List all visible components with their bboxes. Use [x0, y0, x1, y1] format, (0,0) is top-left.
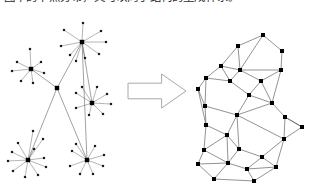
mesh-edge [221, 66, 230, 81]
star-backbone-edge [28, 88, 57, 160]
star-leaf-node [94, 145, 96, 147]
star-spoke-edge [28, 160, 38, 175]
mesh-edge [227, 135, 239, 149]
mesh-node [203, 104, 207, 108]
star-leaf-node [103, 154, 105, 156]
mesh-edge [262, 139, 284, 157]
star-spoke-edge [28, 160, 46, 167]
mesh-edge [254, 167, 276, 181]
mesh-node [260, 155, 264, 159]
right-arrow-icon [128, 74, 186, 108]
star-leaf-node [29, 48, 31, 50]
mesh-edge [221, 66, 240, 70]
star-hub-node [80, 40, 84, 44]
star-leaf-node [79, 173, 81, 175]
mesh-edge [214, 163, 228, 179]
transformation-arrow [128, 74, 186, 108]
mesh-edge [198, 163, 228, 164]
mesh-edge [206, 66, 221, 78]
mesh-edge [285, 117, 302, 127]
mesh-edge [230, 81, 249, 95]
star-leaf-node [100, 30, 102, 32]
star-leaf-node [102, 165, 104, 167]
mesh-node [252, 179, 256, 183]
mesh-edge [205, 106, 237, 115]
star-spoke-edge [25, 160, 28, 177]
mesh-node [236, 44, 240, 48]
star-backbone-edge [31, 69, 57, 88]
mesh-edge [205, 78, 206, 106]
mesh-node [225, 133, 229, 137]
star-leaf-node [63, 29, 65, 31]
star-leaf-node [106, 93, 108, 95]
mesh-node [280, 49, 284, 53]
mesh-node [237, 147, 241, 151]
star-leaf-node [42, 138, 44, 140]
caption-text: 图中的节点分布，又可以向子结构的生成体系。 [4, 0, 239, 4]
mesh-edge [284, 127, 302, 139]
mesh-node [204, 76, 208, 80]
star-leaf-node [43, 157, 45, 159]
star-hub-node [85, 158, 89, 162]
star-leaf-node [82, 22, 84, 24]
mesh-edge [198, 150, 204, 164]
mesh-node [282, 137, 286, 141]
mesh-edge [239, 149, 262, 157]
mesh-node [235, 113, 239, 117]
mesh-node [283, 115, 287, 119]
star-backbone-edge [82, 42, 87, 160]
mesh-edge [238, 46, 240, 70]
mesh-node [196, 87, 200, 91]
star-leaf-node [81, 86, 83, 88]
mesh-edge [247, 157, 262, 169]
mesh-node [196, 162, 200, 166]
mesh-node [261, 33, 265, 37]
mesh-node [247, 93, 251, 97]
star-spoke-edge [8, 160, 28, 161]
star-leaf-node [75, 143, 77, 145]
mesh-node [219, 64, 223, 68]
star-leaf-node [7, 160, 9, 162]
mesh-edge [227, 135, 228, 163]
mesh-edge [237, 115, 239, 149]
mesh-edge [206, 125, 227, 135]
star-leaf-node [96, 86, 98, 88]
mesh-edge [237, 115, 284, 139]
star-leaf-node [75, 60, 77, 62]
mesh-edge [204, 150, 228, 163]
mesh-edge [237, 95, 249, 115]
star-spoke-edge [64, 30, 82, 42]
mesh-node [274, 165, 278, 169]
star-leaf-node [32, 130, 34, 132]
mesh-node [279, 68, 283, 72]
star-leaf-node [17, 142, 19, 144]
mesh-edge [204, 125, 206, 150]
star-graph [7, 22, 112, 178]
mesh-edge [240, 70, 261, 81]
mesh-edge [261, 70, 281, 81]
mesh-edge [237, 103, 272, 115]
star-spoke-edge [28, 139, 43, 160]
mesh-edge [198, 164, 214, 179]
star-leaf-node [11, 151, 13, 153]
mesh-node [202, 148, 206, 152]
star-leaf-node [11, 70, 13, 72]
star-leaf-node [40, 61, 42, 63]
mesh-edge [262, 157, 276, 167]
figure-page: 图中的节点分布，又可以向子结构的生成体系。 [0, 0, 314, 183]
star-leaf-node [102, 113, 104, 115]
star-leaf-node [84, 57, 86, 59]
star-leaf-node [43, 72, 45, 74]
star-spoke-edge [92, 103, 111, 104]
star-leaf-node [37, 174, 39, 176]
mesh-node [270, 101, 274, 105]
star-hub-node [26, 158, 30, 162]
star-leaf-node [33, 148, 35, 150]
mesh-node [228, 79, 232, 83]
mesh-node [212, 177, 216, 181]
star-spoke-edge [28, 158, 44, 160]
star-spoke-edge [82, 31, 101, 42]
mesh-edge [204, 135, 227, 150]
star-spoke-edge [72, 151, 87, 160]
star-backbone-edge [57, 42, 82, 88]
